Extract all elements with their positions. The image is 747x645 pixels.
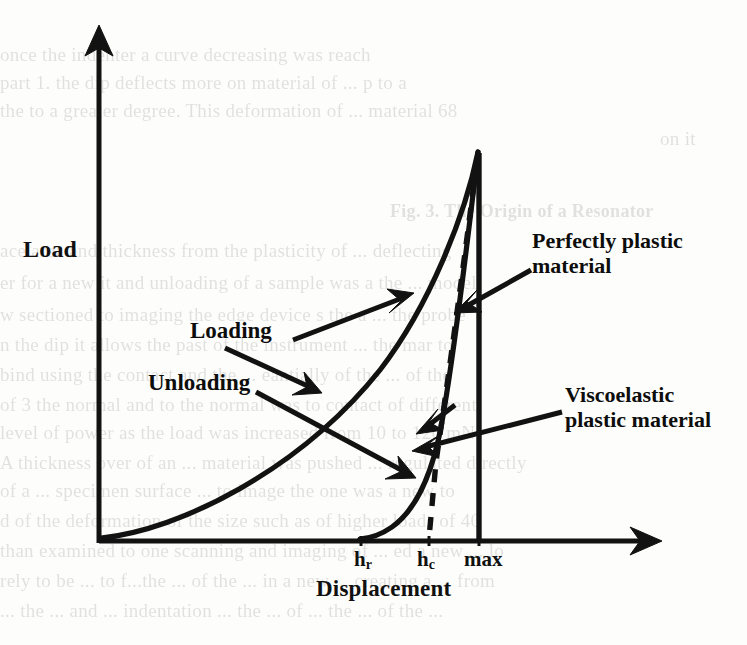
viscoelastic-line-2: plastic material [565, 407, 711, 432]
x-axis-title: Displacement [316, 576, 451, 602]
hr-base: h [354, 547, 366, 571]
perfectly-plastic-line-2: material [532, 253, 611, 278]
unloading-arrowhead [385, 456, 416, 479]
x-tick-label-max: max [464, 547, 503, 572]
scanned-page: once the indenter a curve decreasing was… [0, 0, 747, 645]
axes-group [85, 25, 662, 555]
unloading-callout-label: Unloading [148, 370, 250, 396]
loading-callout-arrow [293, 289, 414, 340]
hc-subscript: c [429, 557, 435, 572]
x-tick-label-hc: hc [417, 547, 435, 572]
unloading-branch-arrowhead [416, 409, 443, 434]
x-tick-label-hr: hr [354, 547, 372, 572]
loading-curve [101, 152, 478, 538]
chart-svg [0, 0, 747, 645]
perfectly-plastic-line-1: Perfectly plastic [532, 228, 683, 253]
viscoelastic-line-1: Viscoelastic [565, 382, 674, 407]
hc-base: h [417, 547, 429, 571]
loading-callout-label: Loading [190, 318, 272, 344]
perfectly-plastic-callout-label: Perfectly plastic material [532, 229, 683, 278]
hr-subscript: r [366, 557, 372, 572]
viscoelastic-callout-label: Viscoelastic plastic material [565, 383, 711, 432]
load-displacement-figure: Load Displacement Loading Unloading Perf… [0, 0, 747, 645]
unloading-branch-tick-arrow [416, 405, 455, 434]
y-axis-title: Load [23, 236, 77, 263]
perfectly-plastic-callout-arrow [454, 270, 531, 313]
